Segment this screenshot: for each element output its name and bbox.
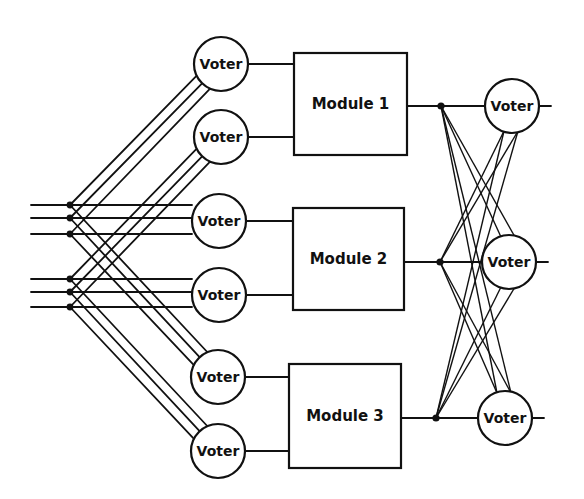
voter-label: Voter — [198, 213, 241, 229]
voter-input-wire — [70, 77, 196, 205]
voter-label: Voter — [200, 129, 243, 145]
output-junction-dot — [432, 414, 439, 421]
voter-label: Voter — [491, 98, 534, 114]
voter-input-wire — [70, 279, 207, 425]
module-box: Module 2 — [293, 208, 404, 310]
module-box: Module 1 — [294, 53, 407, 155]
module-label: Module 1 — [312, 95, 390, 113]
nodes: VoterVoterVoterVoterVoterVoterModule 1Mo… — [191, 37, 539, 478]
input-voter: Voter — [192, 194, 246, 248]
output-voter: Voter — [482, 235, 536, 289]
module-label: Module 3 — [306, 407, 384, 425]
voter-label: Voter — [488, 254, 531, 270]
input-voter: Voter — [194, 110, 248, 164]
voter-label: Voter — [198, 287, 241, 303]
module-label: Module 2 — [310, 250, 388, 268]
output-junction-dot — [436, 258, 443, 265]
junction-dot — [67, 231, 74, 238]
voter-input-wire — [70, 156, 202, 292]
junction-dot — [67, 202, 74, 209]
input-voter: Voter — [192, 268, 246, 322]
tmr-voter-diagram: VoterVoterVoterVoterVoterVoterModule 1Mo… — [0, 0, 584, 499]
junction-dot — [67, 276, 74, 283]
input-voter: Voter — [191, 424, 245, 478]
voter-label: Voter — [197, 369, 240, 385]
voter-label: Voter — [484, 410, 527, 426]
input-voter: Voter — [191, 350, 245, 404]
voter-input-wire — [70, 307, 193, 438]
input-voter: Voter — [194, 37, 248, 91]
junction-dot — [67, 304, 74, 311]
output-voter: Voter — [478, 391, 532, 445]
voter-label: Voter — [200, 56, 243, 72]
module-box: Module 3 — [289, 364, 401, 468]
voter-input-wire — [70, 83, 202, 218]
voter-label: Voter — [197, 443, 240, 459]
junction-dot — [67, 215, 74, 222]
voter-input-wire — [70, 292, 200, 431]
junction-dot — [67, 289, 74, 296]
voter-input-wire — [70, 90, 209, 234]
output-junction-dot — [437, 102, 444, 109]
output-voter: Voter — [485, 79, 539, 133]
